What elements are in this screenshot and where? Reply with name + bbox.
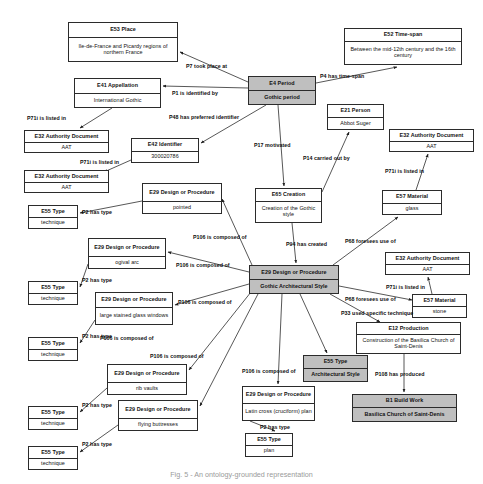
- node-class-label: E55 Type: [29, 282, 77, 294]
- edge-e_p2_archstyle: [300, 294, 327, 353]
- node-class-label: E41 Appellation: [75, 79, 160, 94]
- node-e55_plan[interactable]: E55 Typeplan: [245, 433, 293, 457]
- node-value-label: plan: [246, 446, 292, 456]
- node-value-label: AAT: [25, 143, 108, 152]
- node-class-label: E55 Type: [29, 338, 77, 350]
- edge-label-p71i_4: P71i is listed in: [386, 284, 425, 290]
- node-value-label: AAT: [390, 142, 473, 151]
- node-e57_glass[interactable]: E57 Materialglass: [382, 190, 442, 215]
- edge-label-p106_1: P106 is composed of: [193, 234, 247, 240]
- node-e55_tech_2[interactable]: E55 Typetechnique: [28, 281, 78, 305]
- edge-label-p106_3: P106 is composed of: [178, 299, 232, 305]
- node-value-label: Ile-de-France and Picardy regions of nor…: [69, 38, 177, 61]
- node-e55_archstyle[interactable]: E55 TypeArchitectural Style: [303, 355, 368, 382]
- node-e29_flying[interactable]: E29 Design or Procedureflying buttresses: [118, 400, 198, 431]
- node-value-label: pointed: [143, 202, 221, 213]
- node-e29_ogival[interactable]: E29 Design or Procedureogival arc: [88, 238, 166, 269]
- edge-label-p106_5: P106 is composed of: [150, 353, 204, 359]
- node-e29_hub[interactable]: E29 Design or ProcedureGothic Architectu…: [249, 265, 339, 294]
- edge-label-p68_2: P68 foresees use of: [345, 296, 396, 302]
- node-class-label: E21 Person: [328, 105, 383, 118]
- edge-label-p17: P17 motivated: [254, 142, 291, 148]
- node-e21_person[interactable]: E21 PersonAbbot Suger: [327, 104, 384, 130]
- node-value-label: Basilica Church of Saint-Denis: [353, 408, 456, 421]
- node-e42_identifier[interactable]: E42 Identifier300020786: [131, 138, 199, 163]
- node-e55_tech_1[interactable]: E55 Typetechnique: [28, 205, 78, 229]
- node-class-label: E32 Authority Document: [390, 130, 473, 142]
- node-e32_aat_2[interactable]: E32 Authority DocumentAAT: [389, 129, 474, 152]
- node-class-label: E29 Design or Procedure: [250, 266, 338, 280]
- node-e52_timespan[interactable]: E52 Time-spanBetween the mid-12th centur…: [344, 28, 462, 65]
- node-e29_glass_win[interactable]: E29 Design or Procedurelarge stained gla…: [95, 292, 173, 325]
- edge-label-p33: P33 used specific technique: [341, 310, 413, 316]
- node-class-label: E53 Place: [69, 23, 177, 38]
- node-class-label: E32 Authority Document: [25, 171, 108, 183]
- edge-e_p14: [322, 132, 349, 192]
- node-e53_place[interactable]: E53 PlaceIle-de-France and Picardy regio…: [68, 22, 178, 62]
- node-class-label: E29 Design or Procedure: [96, 293, 172, 308]
- edge-label-p71i_3: P71i is listed in: [385, 168, 424, 174]
- node-class-label: E12 Production: [357, 323, 460, 335]
- edge-label-p48: P48 has preferred identifier: [169, 114, 239, 120]
- edge-e_p2_4: [80, 388, 107, 412]
- edge-e_p2_2: [80, 264, 88, 287]
- node-value-label: Between the mid-12th century and the 16t…: [345, 42, 461, 64]
- node-e12_production[interactable]: E12 ProductionConstruction of the Basili…: [356, 322, 461, 354]
- node-value-label: Gothic period: [249, 91, 315, 104]
- node-class-label: E32 Authority Document: [386, 253, 469, 265]
- edge-label-p1: P1 is identified by: [172, 90, 218, 96]
- node-class-label: E55 Type: [29, 407, 77, 419]
- node-class-label: E4 Period: [249, 77, 315, 91]
- node-class-label: E57 Material: [413, 295, 466, 307]
- edge-label-p2_2: P2 has type: [82, 277, 112, 283]
- node-class-label: E55 Type: [29, 206, 77, 218]
- node-class-label: E29 Design or Procedure: [243, 387, 314, 404]
- diagram-canvas: E53 PlaceIle-de-France and Picardy regio…: [0, 0, 483, 484]
- node-class-label: E57 Material: [383, 191, 441, 204]
- node-value-label: International Gothic: [75, 94, 160, 107]
- node-class-label: E42 Identifier: [132, 139, 198, 152]
- node-e41_appellation[interactable]: E41 AppellationInternational Gothic: [74, 78, 161, 108]
- node-b1_buildwork[interactable]: B1 Build WorkBasilica Church of Saint-De…: [352, 394, 457, 422]
- node-e4_period[interactable]: E4 PeriodGothic period: [248, 76, 316, 105]
- node-e32_aat_4[interactable]: E32 Authority DocumentAAT: [385, 252, 470, 275]
- node-value-label: technique: [29, 218, 77, 228]
- node-e55_tech_5[interactable]: E55 Typetechnique: [28, 446, 78, 470]
- node-class-label: E29 Design or Procedure: [119, 401, 197, 419]
- edge-label-p68_1: P68 foresees use of: [345, 238, 396, 244]
- node-value-label: technique: [29, 459, 77, 469]
- node-value-label: ogival arc: [89, 257, 165, 268]
- edge-label-p106_2: P106 is composed of: [176, 262, 230, 268]
- node-e32_aat_1[interactable]: E32 Authority DocumentAAT: [24, 130, 109, 153]
- edge-label-p7: P7 took place at: [186, 63, 227, 69]
- edge-label-p71i_2: P71i is listed in: [80, 159, 119, 165]
- node-class-label: E29 Design or Procedure: [89, 239, 165, 257]
- node-e29_rib[interactable]: E29 Design or Procedurerib vaults: [107, 364, 187, 395]
- edge-e_p48: [201, 105, 266, 143]
- node-value-label: Creation of the Gothic style: [256, 202, 321, 222]
- node-value-label: technique: [29, 294, 77, 304]
- node-e55_tech_4[interactable]: E55 Typetechnique: [28, 406, 78, 430]
- node-class-label: E29 Design or Procedure: [143, 184, 221, 202]
- edge-label-p2_4: P2 has type: [82, 402, 112, 408]
- node-e29_latincross[interactable]: E29 Design or ProcedureLatin cross (cruc…: [242, 386, 315, 421]
- node-value-label: AAT: [386, 265, 469, 274]
- edge-e_p71i_1: [80, 108, 112, 128]
- node-value-label: technique: [29, 350, 77, 360]
- node-e65_creation[interactable]: E65 CreationCreation of the Gothic style: [255, 188, 322, 223]
- edge-label-p94: P94 has created: [286, 241, 327, 247]
- node-e55_tech_3[interactable]: E55 Typetechnique: [28, 337, 78, 361]
- node-value-label: AAT: [25, 183, 108, 192]
- node-class-label: E65 Creation: [256, 189, 321, 202]
- edge-e_p1: [163, 86, 248, 88]
- edge-e_p2_6: [80, 425, 118, 452]
- node-e29_pointed[interactable]: E29 Design or Procedurepointed: [142, 183, 222, 214]
- node-e32_aat_3[interactable]: E32 Authority DocumentAAT: [24, 170, 109, 193]
- node-class-label: E32 Authority Document: [25, 131, 108, 143]
- node-value-label: Abbot Suger: [328, 118, 383, 129]
- node-class-label: E55 Type: [29, 447, 77, 459]
- edge-label-p2_6: P2 has type: [82, 441, 112, 447]
- node-e57_stone[interactable]: E57 Materialstone: [412, 294, 467, 318]
- node-value-label: Architectural Style: [304, 369, 367, 381]
- node-value-label: rib vaults: [108, 383, 186, 394]
